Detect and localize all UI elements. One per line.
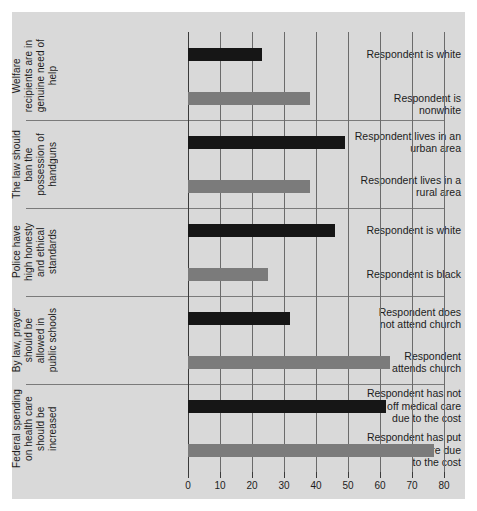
- chart-plot-wrapper: Welfare recipients are in genuine need o…: [12, 12, 465, 499]
- x-axis-tick: [284, 472, 285, 478]
- bar: [188, 444, 434, 457]
- group-label: Police have high honesty and ethical sta…: [12, 208, 58, 296]
- bar: [188, 312, 290, 325]
- x-axis: 01020304050607080: [188, 472, 444, 498]
- x-axis-tick-label: 80: [438, 480, 449, 491]
- chart-figure: Welfare recipients are in genuine need o…: [12, 12, 465, 499]
- bar: [188, 400, 386, 413]
- x-axis-tick: [380, 472, 381, 478]
- group-label-text: The law should ban the possession of han…: [11, 130, 59, 199]
- x-axis-tick-label: 60: [374, 480, 385, 491]
- bar: [188, 356, 390, 369]
- x-axis-tick-label: 20: [246, 480, 257, 491]
- group-label: By law, prayer should be allowed in publ…: [12, 296, 58, 384]
- x-axis-tick: [252, 472, 253, 478]
- x-axis-tick-label: 10: [214, 480, 225, 491]
- group-label-text: By law, prayer should be allowed in publ…: [11, 308, 59, 372]
- group-label: The law should ban the possession of han…: [12, 120, 58, 208]
- bar: [188, 224, 335, 237]
- x-axis-tick: [220, 472, 221, 478]
- bar: [188, 268, 268, 281]
- group-label-text: Welfare recipients are in genuine need o…: [11, 39, 59, 112]
- gridline: [412, 32, 413, 472]
- x-axis-tick: [348, 472, 349, 478]
- group-label: Federal spending on health care should b…: [12, 384, 58, 472]
- x-axis-tick-label: 70: [406, 480, 417, 491]
- x-axis-tick-label: 0: [185, 480, 191, 491]
- bar: [188, 92, 310, 105]
- x-axis-tick: [316, 472, 317, 478]
- group-label-text: Federal spending on health care should b…: [11, 389, 59, 468]
- bar: [188, 136, 345, 149]
- group-label: Welfare recipients are in genuine need o…: [12, 32, 58, 120]
- x-axis-tick-label: 40: [310, 480, 321, 491]
- x-axis-tick: [444, 472, 445, 478]
- x-axis-tick-label: 50: [342, 480, 353, 491]
- x-axis-tick: [188, 472, 189, 478]
- x-axis-tick: [412, 472, 413, 478]
- bar: [188, 180, 310, 193]
- gridline: [444, 32, 445, 472]
- x-axis-tick-label: 30: [278, 480, 289, 491]
- bar: [188, 48, 262, 61]
- plot-area: [188, 32, 444, 472]
- group-label-text: Police have high honesty and ethical sta…: [11, 223, 59, 281]
